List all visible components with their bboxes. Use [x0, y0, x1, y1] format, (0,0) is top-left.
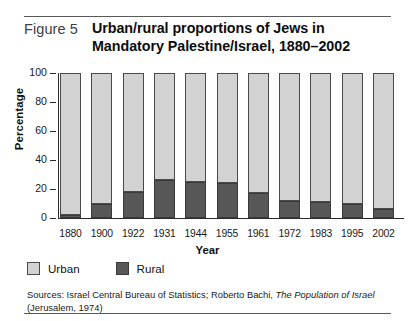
y-tick-mark — [50, 102, 56, 103]
x-tick-label-1972: 1972 — [273, 228, 307, 239]
bar-segment-rural[interactable] — [185, 182, 206, 218]
bar-2002[interactable] — [373, 73, 394, 218]
x-axis-line — [58, 218, 404, 219]
legend-item-rural[interactable]: Rural — [116, 262, 165, 275]
y-axis-ticks: 020406080100 — [26, 66, 56, 218]
bar-segment-urban[interactable] — [279, 73, 300, 201]
x-tick-label-1922: 1922 — [116, 228, 150, 239]
y-tick-label: 80 — [35, 95, 47, 107]
bar-1955[interactable] — [217, 73, 238, 218]
bar-segment-urban[interactable] — [342, 73, 363, 204]
bar-segment-rural[interactable] — [373, 209, 394, 218]
bar-segment-rural[interactable] — [248, 193, 269, 218]
sources-note: Sources: Israel Central Bureau of Statis… — [27, 288, 387, 315]
y-tick-mark — [50, 160, 56, 161]
figure-header: Figure 5 Urban/rural proportions of Jews… — [24, 20, 394, 55]
x-axis-title: Year — [0, 244, 415, 256]
chart-legend: Urban Rural — [27, 262, 200, 275]
y-tick-mark — [50, 73, 56, 74]
bar-segment-rural[interactable] — [91, 204, 112, 219]
bar-segment-urban[interactable] — [91, 73, 112, 204]
bar-segment-urban[interactable] — [373, 73, 394, 209]
y-tick-label: 60 — [35, 124, 47, 136]
bar-1931[interactable] — [154, 73, 175, 218]
bar-segment-urban[interactable] — [217, 73, 238, 183]
bar-segment-rural[interactable] — [279, 201, 300, 218]
bar-segment-rural[interactable] — [154, 180, 175, 218]
x-tick-label-1983: 1983 — [304, 228, 338, 239]
chart-plot-area: Percentage 020406080100 1880190019221931… — [0, 66, 415, 226]
y-tick-label: 20 — [35, 182, 47, 194]
bar-1983[interactable] — [310, 73, 331, 218]
y-axis-line — [58, 73, 59, 218]
bar-segment-urban[interactable] — [60, 73, 81, 215]
figure-title-line-2: Mandatory Palestine/Israel, 1880–2002 — [92, 38, 350, 56]
bar-segment-urban[interactable] — [248, 73, 269, 193]
legend-swatch-urban-icon — [27, 262, 40, 275]
x-tick-label-1900: 1900 — [85, 228, 119, 239]
y-tick-mark — [50, 131, 56, 132]
bottom-divider — [24, 313, 391, 314]
x-tick-label-1995: 1995 — [335, 228, 369, 239]
legend-item-urban[interactable]: Urban — [27, 262, 80, 275]
bar-segment-rural[interactable] — [123, 192, 144, 218]
sources-suffix: (Jerusalem, 1974) — [27, 302, 103, 313]
bar-segment-rural[interactable] — [60, 215, 81, 218]
x-tick-label-1880: 1880 — [54, 228, 88, 239]
x-tick-label-1961: 1961 — [241, 228, 275, 239]
figure-container: Figure 5 Urban/rural proportions of Jews… — [0, 0, 415, 321]
bar-1922[interactable] — [123, 73, 144, 218]
bar-1995[interactable] — [342, 73, 363, 218]
bar-1961[interactable] — [248, 73, 269, 218]
figure-title-line-1: Urban/rural proportions of Jews in — [92, 20, 350, 38]
x-axis-ticks: 1880190019221931194419551961197219831995… — [60, 228, 404, 242]
bar-segment-urban[interactable] — [185, 73, 206, 182]
x-tick-label-1955: 1955 — [210, 228, 244, 239]
bar-1972[interactable] — [279, 73, 300, 218]
x-tick-label-1931: 1931 — [147, 228, 181, 239]
legend-swatch-rural-icon — [116, 262, 129, 275]
y-tick-label: 100 — [29, 66, 47, 78]
y-tick-mark — [50, 189, 56, 190]
figure-number: Figure 5 — [24, 20, 78, 37]
figure-title: Urban/rural proportions of Jews in Manda… — [92, 20, 350, 55]
legend-label-urban: Urban — [48, 262, 80, 275]
bar-segment-urban[interactable] — [310, 73, 331, 202]
bar-segment-rural[interactable] — [342, 204, 363, 219]
bar-segment-urban[interactable] — [123, 73, 144, 192]
bar-segment-rural[interactable] — [310, 202, 331, 218]
y-tick-label: 0 — [41, 211, 47, 223]
bar-segment-urban[interactable] — [154, 73, 175, 180]
top-divider — [24, 16, 391, 17]
bar-1900[interactable] — [91, 73, 112, 218]
y-tick-mark — [50, 218, 56, 219]
x-tick-label-1944: 1944 — [179, 228, 213, 239]
y-axis-title: Percentage — [13, 59, 25, 179]
bar-1944[interactable] — [185, 73, 206, 218]
x-tick-label-2002: 2002 — [367, 228, 401, 239]
bar-group — [60, 73, 404, 218]
legend-label-rural: Rural — [137, 262, 165, 275]
sources-prefix: Sources: Israel Central Bureau of Statis… — [27, 289, 276, 300]
bar-segment-rural[interactable] — [217, 183, 238, 218]
y-tick-label: 40 — [35, 153, 47, 165]
sources-italic-title: The Population of Israel — [276, 289, 375, 300]
bar-1880[interactable] — [60, 73, 81, 218]
